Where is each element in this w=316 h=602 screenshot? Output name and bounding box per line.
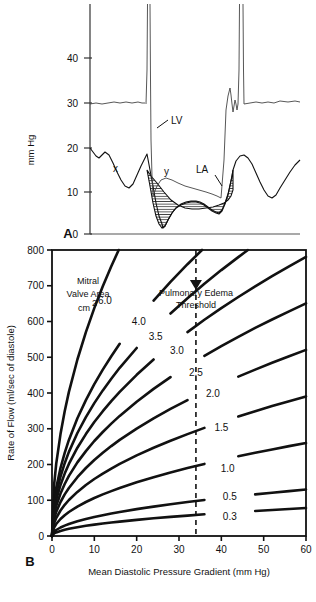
panel-a-ticks bbox=[84, 58, 92, 234]
y-tick-label-600: 600 bbox=[27, 316, 44, 327]
curve-area-2.5-b bbox=[204, 303, 306, 355]
lv-label-leader bbox=[157, 120, 168, 128]
x-descent-label: x bbox=[113, 163, 118, 174]
panel-a-label: A bbox=[63, 226, 73, 241]
curve-label-1.5: 1.5 bbox=[214, 422, 228, 433]
lv-downstroke-1 bbox=[150, 4, 153, 196]
y-tick-label-300: 300 bbox=[27, 423, 44, 434]
y-tick-label-700: 700 bbox=[27, 280, 44, 291]
curve-label-1.0: 1.0 bbox=[221, 463, 235, 474]
legend-title-line1: Mitral bbox=[77, 276, 99, 286]
curve-area-0.5 bbox=[52, 500, 204, 536]
curve-label-0.3: 0.3 bbox=[223, 511, 237, 522]
panel-a-ytick-20: 20 bbox=[67, 143, 79, 154]
figure-container: 40 30 20 10 0 mm Hg A LV LA x y 01002003… bbox=[0, 0, 316, 602]
y-tick-label-800: 800 bbox=[27, 245, 44, 256]
legend-title-line3: cm bbox=[78, 303, 90, 313]
x-tick-label-50: 50 bbox=[258, 544, 270, 555]
x-tick-label-60: 60 bbox=[300, 544, 312, 555]
curve-area-2.0-b bbox=[238, 350, 306, 377]
la-label-leader bbox=[215, 175, 222, 186]
y-tick-label-500: 500 bbox=[27, 352, 44, 363]
threshold-label-line2: Threshold bbox=[176, 300, 216, 310]
y-tick-label-400: 400 bbox=[27, 388, 44, 399]
x-tick-label-30: 30 bbox=[173, 544, 185, 555]
x-tick-label-20: 20 bbox=[131, 544, 143, 555]
la-label: LA bbox=[196, 164, 209, 175]
lv-label: LV bbox=[171, 115, 183, 126]
panel-a-ytick-10: 10 bbox=[67, 187, 79, 198]
x-axis-title: Mean Diastolic Pressure Gradient (mm Hg) bbox=[88, 566, 270, 577]
lv-trace-right-segment bbox=[244, 101, 300, 104]
panel-a-y-axis-title: mm Hg bbox=[25, 135, 36, 166]
threshold-label-line1: Pulmonary Edema bbox=[159, 288, 233, 298]
curve-area-0.5-b bbox=[255, 490, 306, 495]
curve-area-1.0-b bbox=[238, 443, 306, 456]
panel-b-gorlin-chart: 0100200300400500600700800 0102030405060 … bbox=[0, 244, 316, 602]
curve-area-0.3 bbox=[52, 514, 204, 536]
panel-b-label: B bbox=[25, 554, 34, 569]
panel-a-ytick-40: 40 bbox=[67, 53, 79, 64]
panel-a-pressure-tracing: 40 30 20 10 0 mm Hg A LV LA x y bbox=[0, 0, 316, 244]
curve-area-1.0 bbox=[52, 464, 204, 536]
y-tick-label-200: 200 bbox=[27, 459, 44, 470]
curve-label-3.5: 3.5 bbox=[149, 331, 163, 342]
legend-title-superscript: 2 bbox=[92, 298, 97, 308]
y-axis-title: Rate of Flow (ml/sec of diastole) bbox=[5, 325, 16, 461]
lv-trace-left-segment bbox=[90, 102, 145, 104]
y-descent-label: y bbox=[164, 166, 169, 177]
curve-area-1.5-b bbox=[238, 396, 306, 416]
curve-area-0.3-b bbox=[255, 508, 306, 511]
panel-a-ytick-0: 0 bbox=[72, 229, 78, 240]
curve-label-4.0: 4.0 bbox=[132, 316, 146, 327]
y-axis-tick-labels: 0100200300400500600700800 bbox=[27, 245, 44, 542]
curve-label-3.0: 3.0 bbox=[170, 345, 184, 356]
y-tick-label-0: 0 bbox=[38, 531, 44, 542]
la-pressure-trace bbox=[90, 148, 300, 228]
lv-downstroke-2 bbox=[243, 4, 244, 104]
panel-a-ytick-30: 30 bbox=[67, 98, 79, 109]
curve-label-2.0: 2.0 bbox=[206, 388, 220, 399]
x-tick-label-0: 0 bbox=[49, 544, 55, 555]
x-tick-label-40: 40 bbox=[216, 544, 228, 555]
x-tick-label-10: 10 bbox=[89, 544, 101, 555]
curve-label-0.5: 0.5 bbox=[223, 491, 237, 502]
legend-title-line2: Valve Area bbox=[67, 289, 110, 299]
lv-upstroke-2 bbox=[221, 4, 240, 198]
lv-upstroke-1 bbox=[146, 4, 148, 104]
x-axis-tick-labels: 0102030405060 bbox=[49, 544, 312, 555]
y-tick-label-100: 100 bbox=[27, 495, 44, 506]
